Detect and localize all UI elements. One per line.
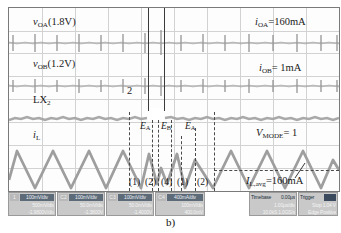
channel-line1-c2: 50.0mV/div: [59, 202, 103, 209]
lx2-discontinuity-gap: [148, 108, 164, 122]
channel-line1-c3: 50.0mV/div: [108, 202, 152, 209]
label-iob-value: iOB= 1mA: [259, 63, 301, 75]
trigger-line2: Edge Positive: [300, 209, 336, 216]
channel-id-c4: C4: [157, 194, 166, 201]
timebase-value: 0.00µs: [281, 194, 295, 201]
cursor-dashed-7[interactable]: [214, 112, 215, 191]
trigger-status-badge[interactable]: [324, 194, 336, 201]
channel-id-c1: 1: [10, 194, 19, 201]
label-il: iL: [33, 130, 40, 142]
channel-title-c2: 100mV/div: [69, 194, 103, 201]
cursor-number-marker: 2: [127, 86, 132, 97]
cursor-dashed-6[interactable]: [195, 128, 196, 191]
label-lx2: LX2: [33, 95, 51, 107]
channel-box-c1[interactable]: 1 100mV/div 500mV/div -1.9800V/div: [8, 192, 56, 216]
cursor-average-level[interactable]: [214, 170, 339, 171]
label-vmode: VMODE= 1: [256, 128, 297, 140]
figure-caption: b): [0, 216, 341, 228]
phase-number-1: (1): [129, 178, 140, 188]
channel-title-c3: 100mV/div: [118, 194, 152, 201]
trigger-line1: Stop 1.04 V: [300, 202, 336, 209]
phase-number-5: (2): [197, 178, 208, 188]
channel-line1-c4: 100mV/div: [157, 202, 203, 209]
timebase-line2: 10.0kS 1.0GS/s: [251, 209, 295, 216]
phase-number-2: (2): [145, 178, 156, 188]
channel-box-c4[interactable]: C4 400mA/div 100mV/div 400.0mV: [155, 192, 205, 216]
label-voa: vOA(1.8V): [33, 17, 76, 29]
waveform-traces: [9, 8, 339, 191]
channel-line1-c1: 500mV/div: [10, 202, 54, 209]
label-ilavg: IL,avg=160mA: [246, 176, 303, 188]
figure-container: vOA(1.8V) vOB(1.2V) LX2 iL iOA=160mA iOB…: [0, 0, 341, 233]
cursor-solid-left[interactable]: [148, 8, 149, 111]
cursor-dashed-3[interactable]: [158, 120, 159, 191]
phase-number-4: (1): [177, 178, 188, 188]
event-marker-ea-2: EA: [185, 122, 195, 132]
channel-line2-c1: -1.9800V/div: [10, 209, 54, 216]
trace-lx2: [9, 117, 339, 120]
trigger-box[interactable]: Trigger Stop 1.04 V Edge Positive: [298, 192, 338, 216]
event-marker-eb: EB: [161, 122, 171, 132]
label-ioa-value: iOA=160mA: [255, 17, 306, 29]
channel-title-c4: 400mA/div: [167, 194, 203, 201]
channel-title-c1: 100mV/div: [20, 194, 54, 201]
timebase-line1: 1.00µs/div: [251, 202, 295, 209]
channel-id-c3: C3: [108, 194, 117, 201]
event-marker-ea-1: EA: [140, 122, 150, 132]
channel-id-c2: C2: [59, 194, 68, 201]
channel-line2-c3: -1.4000V: [108, 209, 152, 216]
phase-number-3: (4): [161, 178, 172, 188]
timebase-header: Timebase 0.00µs: [251, 194, 295, 201]
oscilloscope-status-bar: 1 100mV/div 500mV/div -1.9800V/div C2 10…: [8, 192, 338, 216]
channel-box-c3[interactable]: C3 100mV/div 50.0mV/div -1.4000V: [106, 192, 154, 216]
cursor-solid-right[interactable]: [164, 8, 165, 111]
channel-line2-c2: -1.3800V: [59, 209, 103, 216]
label-vob: vOB(1.2V): [33, 59, 75, 71]
channel-line2-c4: 400.0mV: [157, 209, 203, 216]
timebase-box[interactable]: Timebase 0.00µs 1.00µs/div 10.0kS 1.0GS/…: [249, 192, 297, 216]
oscilloscope-screen: vOA(1.8V) vOB(1.2V) LX2 iL iOA=160mA iOB…: [8, 7, 340, 192]
channel-box-c2[interactable]: C2 100mV/div 50.0mV/div -1.3800V: [57, 192, 105, 216]
